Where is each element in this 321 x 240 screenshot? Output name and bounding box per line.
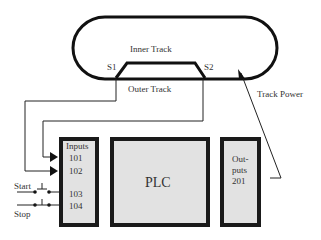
outputs-title-2: puts bbox=[232, 165, 247, 175]
s2-label: S2 bbox=[204, 62, 214, 72]
input-101: 101 bbox=[69, 153, 83, 163]
stop-switch bbox=[17, 199, 60, 207]
stop-label: Stop bbox=[14, 209, 31, 219]
outer-track-siding bbox=[116, 63, 205, 78]
arrow-102 bbox=[50, 166, 58, 176]
inner-track-loop bbox=[73, 17, 277, 79]
s1-label: S1 bbox=[107, 62, 117, 72]
inputs-title: Inputs bbox=[66, 141, 89, 151]
input-103: 103 bbox=[69, 189, 83, 199]
plc-label: PLC bbox=[145, 176, 171, 190]
track-power-label: Track Power bbox=[257, 89, 303, 99]
outer-track-label: Outer Track bbox=[128, 84, 171, 94]
output-201: 201 bbox=[232, 176, 246, 186]
arrow-101 bbox=[50, 152, 58, 162]
start-label: Start bbox=[14, 181, 31, 191]
inner-track-label: Inner Track bbox=[130, 44, 172, 54]
input-102: 102 bbox=[69, 166, 83, 176]
input-104: 104 bbox=[69, 201, 83, 211]
outputs-title-1: Out- bbox=[232, 154, 249, 164]
